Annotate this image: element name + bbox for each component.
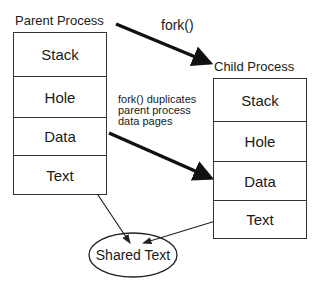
parent-process-title: Parent Process: [15, 13, 104, 28]
parent-segment-stack: Stack: [14, 33, 106, 77]
child-segment-text: Text: [214, 201, 306, 238]
child-segment-hole: Hole: [214, 122, 306, 162]
parent-segment-hole: Hole: [14, 77, 106, 118]
fork-label: fork(): [161, 17, 194, 33]
parent-segment-text: Text: [14, 156, 106, 194]
parent-segment-data: Data: [14, 118, 106, 156]
shared-text-label: Shared Text: [83, 247, 183, 263]
child-segment-stack: Stack: [214, 79, 306, 122]
fork-note: fork() duplicates parent process data pa…: [118, 94, 196, 127]
child-process-title: Child Process: [214, 59, 294, 74]
parent-process-box: Stack Hole Data Text: [13, 32, 107, 195]
child-process-box: Stack Hole Data Text: [213, 78, 307, 239]
note-line-3: data pages: [118, 116, 196, 127]
child-segment-data: Data: [214, 162, 306, 201]
data-duplication-arrow: [109, 133, 211, 178]
